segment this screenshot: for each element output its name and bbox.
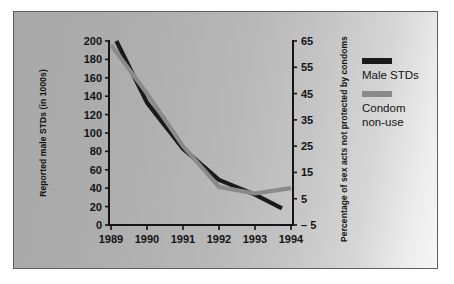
right-axis-tick-label: 15 bbox=[301, 166, 313, 178]
left-axis-tick-label: 80 bbox=[90, 145, 102, 157]
left-axis-title: Reported male STDs (in 1000s) bbox=[38, 69, 48, 197]
left-axis-tick-label: 200 bbox=[84, 35, 102, 47]
x-axis-tick-label: 1992 bbox=[207, 233, 231, 245]
x-axis-tick-label: 1990 bbox=[135, 233, 159, 245]
left-axis-tick-label: 160 bbox=[84, 72, 102, 84]
right-axis-tick-label: – 5 bbox=[301, 219, 316, 231]
legend-label-condom-non-use-line1: Condom bbox=[362, 102, 405, 114]
left-axis-tick-label: 40 bbox=[90, 182, 102, 194]
left-axis-tick-label: 180 bbox=[84, 53, 102, 65]
right-axis-title: Percentage of sex acts not protected by … bbox=[339, 36, 349, 242]
x-axis-tick-label: 1994 bbox=[279, 233, 304, 245]
right-axis-tick-label: 55 bbox=[301, 61, 313, 73]
left-axis-tick-label: 20 bbox=[90, 201, 102, 213]
right-axis-tick-label: 25 bbox=[301, 140, 313, 152]
chart-panel: 020406080100120140160180200Reported male… bbox=[13, 11, 438, 269]
series-line-male-stds bbox=[116, 41, 282, 208]
legend-swatch-condom-non-use bbox=[362, 91, 392, 97]
x-axis-tick-label: 1991 bbox=[171, 233, 195, 245]
figure-container: 020406080100120140160180200Reported male… bbox=[0, 0, 454, 284]
right-axis-tick-label: 45 bbox=[301, 88, 313, 100]
x-axis-tick-label: 1989 bbox=[99, 233, 123, 245]
right-axis-tick-label: 35 bbox=[301, 114, 313, 126]
line-chart: 020406080100120140160180200Reported male… bbox=[14, 12, 437, 268]
left-axis-tick-label: 60 bbox=[90, 164, 102, 176]
legend-label-condom-non-use-line2: non-use bbox=[362, 116, 404, 128]
right-axis-tick-label: 65 bbox=[301, 35, 313, 47]
left-axis-tick-label: 140 bbox=[84, 90, 102, 102]
series-line-condom-non-use bbox=[111, 45, 291, 194]
left-axis-tick-label: 120 bbox=[84, 109, 102, 121]
legend-label-male-stds: Male STDs bbox=[362, 69, 419, 81]
left-axis-tick-label: 0 bbox=[96, 219, 102, 231]
x-axis-tick-label: 1993 bbox=[243, 233, 267, 245]
right-axis-tick-label: 5 bbox=[301, 193, 307, 205]
left-axis-tick-label: 100 bbox=[84, 127, 102, 139]
legend-swatch-male-stds bbox=[362, 58, 392, 64]
